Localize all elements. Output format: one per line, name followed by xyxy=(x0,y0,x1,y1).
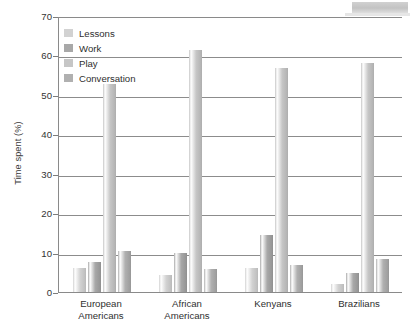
x-axis-label-line: Brazilians xyxy=(304,298,410,310)
bar-chart-figure: Time spent (%) 010203040506070 LessonsWo… xyxy=(0,0,410,336)
x-axis-label-4: Brazilians xyxy=(304,298,410,310)
x-axis-label-line: Americans xyxy=(132,310,242,322)
x-axis-labels: EuropeanAmericansAfricanAmericansKenyans… xyxy=(0,0,410,336)
